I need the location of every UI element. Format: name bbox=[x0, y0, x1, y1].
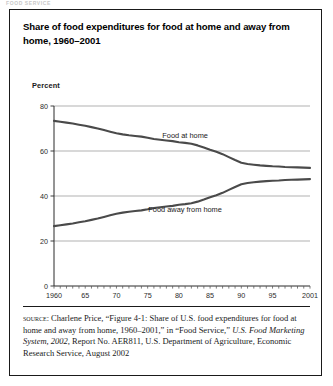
x-axis-tick-label: 80 bbox=[175, 291, 183, 300]
y-axis-tick-label: 20 bbox=[40, 237, 48, 246]
line-chart-svg: 0204060801960657075808590952001Food at h… bbox=[10, 10, 323, 310]
y-axis-tick-label: 80 bbox=[40, 102, 48, 111]
cutoff-header-text: FOOD SERVICE bbox=[6, 0, 51, 6]
series-line-food-away-from-home bbox=[54, 179, 310, 226]
series-annotation: Food away from home bbox=[148, 205, 222, 214]
x-axis-tick-label: 85 bbox=[206, 291, 214, 300]
series-annotation: Food at home bbox=[162, 131, 208, 140]
figure-container: Share of food expenditures for food at h… bbox=[9, 9, 322, 376]
x-axis-tick-label: 65 bbox=[81, 291, 89, 300]
series-line-food-at-home bbox=[54, 121, 310, 168]
x-axis-tick-label: 95 bbox=[269, 291, 277, 300]
x-axis-tick-label: 2001 bbox=[302, 291, 318, 300]
x-axis-tick-label: 70 bbox=[112, 291, 120, 300]
source-note: source: Charlene Price, “Figure 4-1: Sha… bbox=[23, 313, 313, 359]
x-axis-tick-label: 75 bbox=[144, 291, 152, 300]
y-axis-tick-label: 0 bbox=[44, 282, 48, 291]
source-divider bbox=[23, 306, 310, 307]
y-axis-tick-label: 60 bbox=[40, 147, 48, 156]
source-label: source: bbox=[23, 314, 49, 323]
chart-plot-area: 0204060801960657075808590952001Food at h… bbox=[10, 10, 323, 310]
x-axis-tick-label: 90 bbox=[237, 291, 245, 300]
x-axis-tick-label: 1960 bbox=[46, 291, 62, 300]
y-axis-tick-label: 40 bbox=[40, 192, 48, 201]
